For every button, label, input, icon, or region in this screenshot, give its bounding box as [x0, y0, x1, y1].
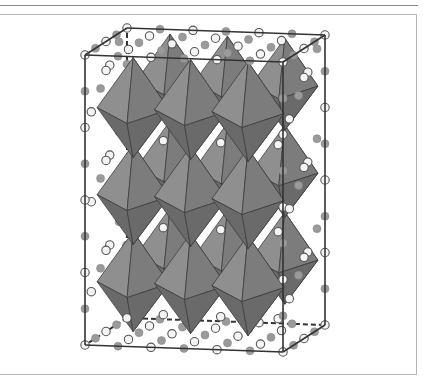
open-atom	[274, 141, 282, 149]
open-atom	[168, 330, 176, 338]
filled-atom	[224, 49, 232, 57]
open-atom	[87, 287, 95, 295]
filled-atom	[295, 181, 303, 189]
open-atom	[217, 138, 225, 146]
open-atom	[102, 156, 110, 164]
filled-atom	[135, 329, 143, 337]
filled-atom	[158, 47, 166, 55]
open-atom	[159, 310, 167, 318]
open-atom	[124, 45, 132, 53]
filled-atom	[201, 41, 209, 49]
filled-atom	[97, 174, 105, 182]
filled-atom	[179, 33, 187, 41]
filled-atom	[245, 35, 253, 43]
octahedra-group	[97, 34, 318, 336]
filled-atom	[92, 334, 100, 342]
filled-atom	[288, 320, 296, 328]
filled-atom	[313, 135, 321, 143]
open-atom	[300, 163, 308, 171]
open-atom	[300, 253, 308, 261]
crystal-structure-diagram	[0, 0, 436, 392]
filled-atom	[313, 45, 321, 53]
open-atom	[159, 223, 167, 231]
open-atom	[277, 326, 285, 334]
open-atom	[217, 312, 225, 320]
filled-atom	[97, 85, 105, 93]
open-atom	[256, 340, 264, 348]
filled-atom	[313, 225, 321, 233]
open-atom	[190, 48, 198, 56]
open-atom	[87, 108, 95, 116]
open-atom	[300, 73, 308, 81]
open-atom	[256, 50, 264, 58]
filled-atom	[113, 321, 121, 329]
filled-atom	[135, 39, 143, 47]
open-atom	[285, 205, 293, 213]
open-atom	[211, 324, 219, 332]
open-atom	[102, 66, 110, 74]
open-atom	[190, 338, 198, 346]
filled-atom	[224, 339, 232, 347]
open-atom	[285, 294, 293, 302]
filled-atom	[267, 43, 275, 51]
open-atom	[102, 246, 110, 254]
open-atom	[124, 335, 132, 343]
open-atom	[123, 314, 131, 322]
open-atom	[217, 225, 225, 233]
open-atom	[274, 228, 282, 236]
filled-atom	[97, 264, 105, 272]
filled-atom	[295, 92, 303, 100]
open-atom	[285, 115, 293, 123]
filled-atom	[267, 333, 275, 341]
open-atom	[234, 42, 242, 50]
open-atom	[168, 40, 176, 48]
filled-atom	[158, 337, 166, 345]
open-atom	[159, 136, 167, 144]
filled-atom	[295, 271, 303, 279]
open-atom	[277, 36, 285, 44]
filled-atom	[201, 331, 209, 339]
open-atom	[145, 322, 153, 330]
open-atom	[145, 32, 153, 40]
open-atom	[102, 327, 110, 335]
open-atom	[211, 34, 219, 42]
cell-edge	[283, 325, 325, 352]
open-atom	[234, 332, 242, 340]
